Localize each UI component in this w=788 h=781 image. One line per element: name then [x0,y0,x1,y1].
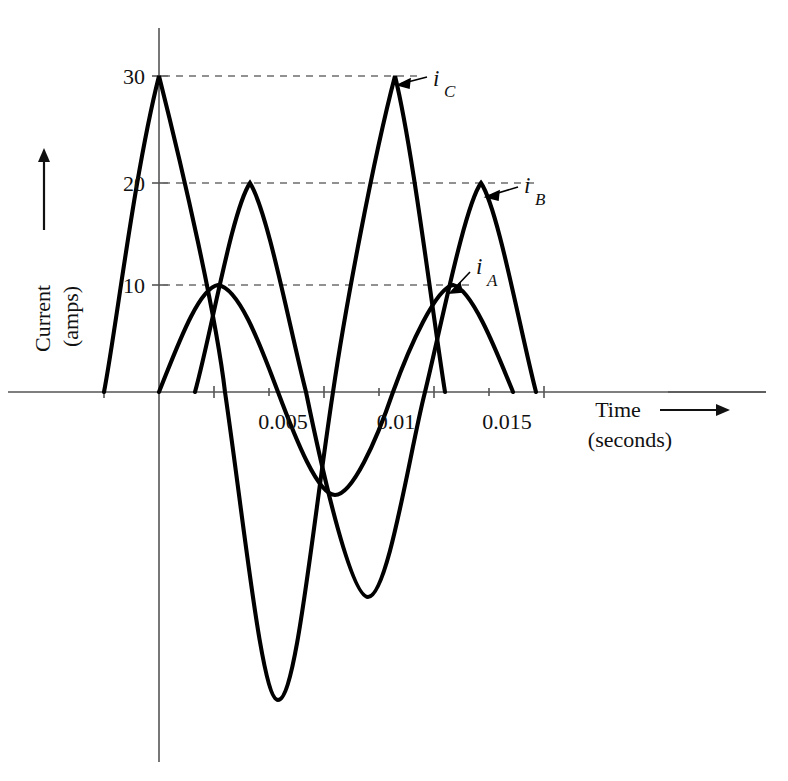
x-tick-label-0005: 0.005 [258,409,308,434]
y-tick-label-20: 20 [123,171,145,196]
y-axis-units: (amps) [58,286,83,347]
y-tick-label-30: 30 [123,64,145,89]
curve-label-ia-sub: A [486,271,498,290]
curve-label-ib-sub: B [535,190,546,209]
y-axis-units-group: (amps) [58,286,83,347]
y-axis-title-group: Current [30,285,55,352]
y-tick-label-10: 10 [123,273,145,298]
curve-label-ia-main: i [476,254,482,279]
x-axis-title: Time [595,397,641,422]
curve-label-ic-main: i [433,66,439,91]
curve-label-ia: i A [476,254,498,290]
figure-container: 30 20 10 0.005 0.01 0.015 Time (seconds)… [0,0,788,781]
curve-label-ic-sub: C [444,82,456,101]
curve-label-ib-main: i [524,173,530,198]
y-axis-title-arrow [38,148,50,230]
x-axis-title-arrow [660,404,730,416]
x-tick-label-0015: 0.015 [482,409,532,434]
x-axis-units: (seconds) [588,427,672,452]
current-vs-time-chart: 30 20 10 0.005 0.01 0.015 Time (seconds)… [0,0,788,781]
x-tick-label-001: 0.01 [377,409,416,434]
curve-label-ic: i C [433,66,456,101]
y-axis-title: Current [30,285,55,352]
guide-lines [163,76,540,285]
curve-label-ib: i B [524,173,546,209]
